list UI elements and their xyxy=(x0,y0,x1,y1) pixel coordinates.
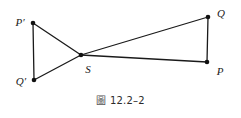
segment-Qprime-S xyxy=(34,55,81,80)
figure-container: P′Q′SQP 圖 12.2–2 xyxy=(0,0,241,118)
figure-caption-number: 12.2–2 xyxy=(110,95,145,106)
vertex-dot-s xyxy=(79,53,84,58)
vertex-dot-p xyxy=(205,60,210,65)
segment-Pprime-S xyxy=(33,23,81,55)
segment-S-P xyxy=(81,55,207,62)
vertex-label-s: S xyxy=(85,64,91,75)
vertex-label-q: Q xyxy=(217,8,225,19)
figure-caption-mark: 圖 xyxy=(96,95,106,106)
segments-group xyxy=(33,17,208,80)
segment-Q-P xyxy=(207,17,208,62)
vertex-label-p: P xyxy=(217,66,224,77)
vertex-label-p-prime: P′ xyxy=(15,17,24,28)
figure-caption: 圖 12.2–2 xyxy=(0,94,241,107)
vertex-dot-p-prime xyxy=(31,21,36,26)
vertex-dot-q-prime xyxy=(32,78,37,83)
segment-S-Q xyxy=(81,17,208,55)
vertex-dot-q xyxy=(206,15,211,20)
vertex-label-q-prime: Q′ xyxy=(16,76,26,87)
segment-Pprime-Qprime xyxy=(33,23,34,80)
